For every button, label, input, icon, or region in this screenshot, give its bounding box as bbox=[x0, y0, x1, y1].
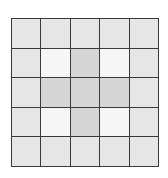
grid-cell-r2-c4 bbox=[130, 78, 158, 107]
grid-cell-r0-c1 bbox=[41, 19, 69, 48]
grid-cell-r3-c3 bbox=[100, 108, 128, 137]
grid-cell-r2-c1 bbox=[41, 78, 69, 107]
shaded-grid bbox=[11, 18, 159, 167]
grid-cell-r3-c2 bbox=[71, 108, 99, 137]
grid-cell-r2-c2 bbox=[71, 78, 99, 107]
grid-cell-r3-c1 bbox=[41, 108, 69, 137]
grid-cell-r1-c3 bbox=[100, 49, 128, 78]
grid-cell-r4-c1 bbox=[41, 137, 69, 166]
grid-cell-r0-c2 bbox=[71, 19, 99, 48]
grid-cell-r1-c4 bbox=[130, 49, 158, 78]
grid-cell-r0-c4 bbox=[130, 19, 158, 48]
grid-cell-r4-c4 bbox=[130, 137, 158, 166]
grid-cell-r0-c0 bbox=[12, 19, 40, 48]
grid-cell-r3-c0 bbox=[12, 108, 40, 137]
grid-cell-r2-c3 bbox=[100, 78, 128, 107]
grid-cell-r4-c0 bbox=[12, 137, 40, 166]
grid-cell-r1-c2 bbox=[71, 49, 99, 78]
grid-cell-r1-c0 bbox=[12, 49, 40, 78]
grid-cell-r0-c3 bbox=[100, 19, 128, 48]
grid-cell-r4-c2 bbox=[71, 137, 99, 166]
grid-cell-r3-c4 bbox=[130, 108, 158, 137]
grid-cell-r2-c0 bbox=[12, 78, 40, 107]
grid-cell-r4-c3 bbox=[100, 137, 128, 166]
grid-cell-r1-c1 bbox=[41, 49, 69, 78]
